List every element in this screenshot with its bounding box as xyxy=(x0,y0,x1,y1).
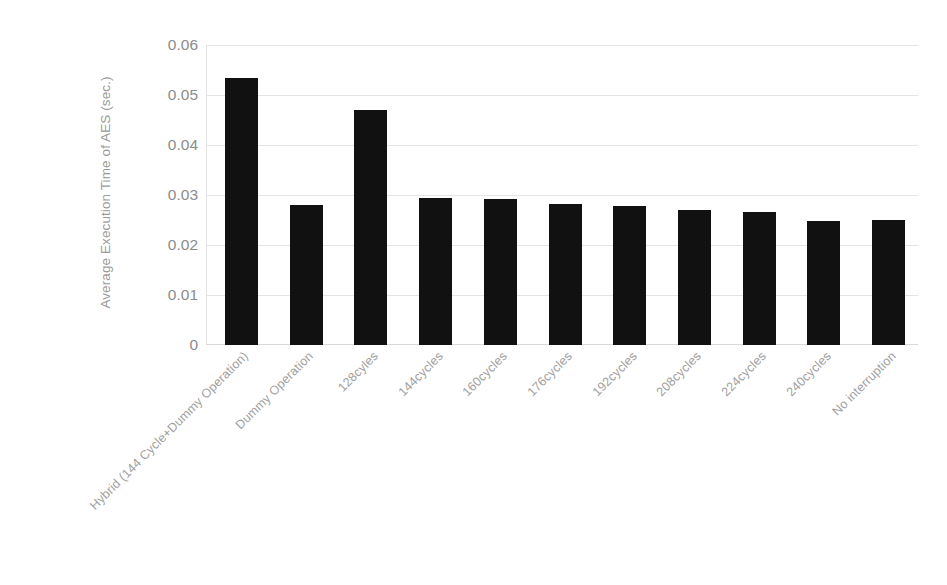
gridline xyxy=(206,45,918,46)
bar[interactable] xyxy=(225,78,258,345)
x-tick-label: 192cycles xyxy=(589,349,639,399)
bar[interactable] xyxy=(678,210,711,346)
y-tick-label: 0.02 xyxy=(142,236,198,254)
y-tick-label: 0.06 xyxy=(142,36,198,54)
y-axis-tick-labels: 0.060.050.040.030.020.010 xyxy=(140,45,198,345)
bar-chart: Average Execution Time of AES (sec.) 0.0… xyxy=(0,0,947,585)
x-tick-label: Hybrid (144 Cycle+Dummy Operation) xyxy=(88,349,252,513)
y-tick-label: 0.05 xyxy=(142,86,198,104)
plot-area xyxy=(206,45,918,345)
bar[interactable] xyxy=(872,220,905,345)
x-axis-tick-labels: Hybrid (144 Cycle+Dummy Operation)Dummy … xyxy=(206,349,918,549)
bar[interactable] xyxy=(613,206,646,345)
gridline xyxy=(206,145,918,146)
y-tick-label: 0 xyxy=(142,336,198,354)
gridline xyxy=(206,95,918,96)
x-tick-label: 160cycles xyxy=(460,349,510,399)
bar[interactable] xyxy=(743,212,776,346)
x-tick-label: 176cycles xyxy=(525,349,575,399)
x-tick-label: 128cyles xyxy=(335,349,381,395)
bar[interactable] xyxy=(354,110,387,345)
y-tick-label: 0.03 xyxy=(142,186,198,204)
x-tick-label: 240cycles xyxy=(784,349,834,399)
y-axis-title: Average Execution Time of AES (sec.) xyxy=(98,28,113,358)
bar[interactable] xyxy=(419,198,452,345)
y-tick-label: 0.01 xyxy=(142,286,198,304)
bar[interactable] xyxy=(807,221,840,345)
gridline xyxy=(206,195,918,196)
bar[interactable] xyxy=(549,204,582,346)
x-tick-label: No interruption xyxy=(829,349,898,418)
bar[interactable] xyxy=(484,199,517,346)
x-tick-label: 224cycles xyxy=(719,349,769,399)
x-tick-label: 144cycles xyxy=(395,349,445,399)
x-tick-label: 208cycles xyxy=(654,349,704,399)
bar[interactable] xyxy=(290,205,323,345)
y-tick-label: 0.04 xyxy=(142,136,198,154)
